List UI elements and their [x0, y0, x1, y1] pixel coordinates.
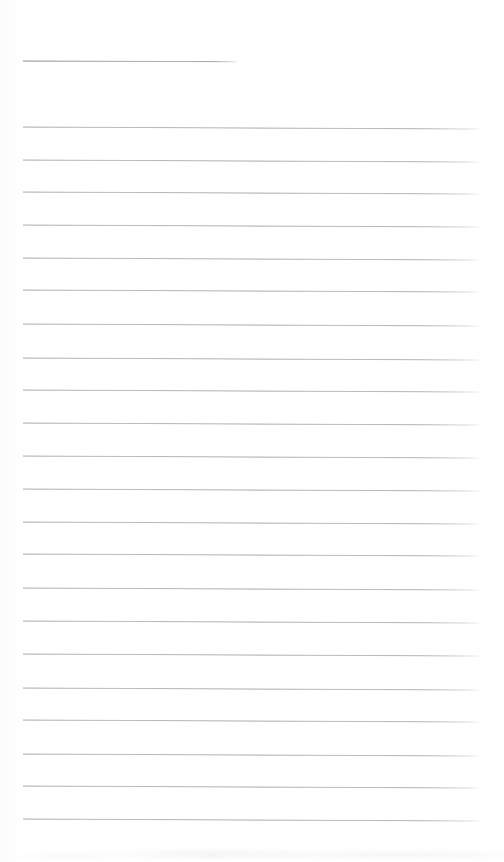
- ruled-line: [23, 455, 480, 459]
- paper-page: [0, 0, 504, 862]
- ruled-line: [23, 257, 480, 261]
- ruled-line: [23, 323, 480, 327]
- ruled-line: [23, 753, 480, 757]
- ruled-line: [23, 389, 480, 393]
- ruled-line: [23, 653, 480, 657]
- ruled-line: [23, 159, 480, 163]
- ruled-line: [23, 620, 480, 624]
- ruled-line: [23, 422, 480, 426]
- ruled-line: [23, 687, 480, 691]
- ruled-line: [23, 719, 480, 723]
- left-gutter-shading: [0, 0, 23, 862]
- ruled-line: [23, 224, 480, 228]
- ruled-line: [23, 357, 480, 361]
- ruled-line: [23, 587, 480, 591]
- header-rule: [23, 60, 237, 63]
- ruled-line: [23, 289, 480, 293]
- ruled-line: [23, 818, 480, 822]
- ruled-line: [23, 191, 480, 195]
- bottom-scan-smudge: [0, 836, 504, 862]
- ruled-line: [23, 785, 480, 789]
- ruled-line: [23, 521, 480, 525]
- ruled-line: [23, 488, 480, 492]
- ruled-line: [23, 126, 480, 130]
- ruled-line: [23, 553, 480, 557]
